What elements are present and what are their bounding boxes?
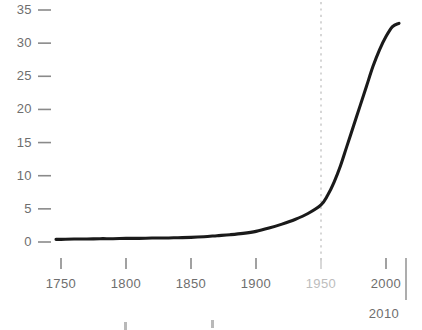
y-axis-tick-label: 25 [17,68,32,83]
bottom-edge-fragment [124,322,127,330]
y-axis-group: 05101520253035 [17,2,51,249]
x-axis-tick-label: 1850 [176,276,207,291]
bottom-edge-fragments [124,320,214,330]
data-series-line [56,23,399,239]
y-axis-tick-label: 20 [17,101,32,116]
bottom-edge-fragment [211,320,214,328]
y-axis-tick-label: 10 [17,168,32,183]
x-axis-tick-label: 1950 [306,276,337,291]
y-axis-tick-label: 0 [24,234,32,249]
y-axis-tick-label: 15 [17,135,32,150]
x-axis-tick-label: 1750 [46,276,77,291]
y-axis-tick-label: 5 [24,201,32,216]
y-axis-tick-label: 35 [17,2,32,17]
y-axis-tick-label: 30 [17,35,32,50]
x-axis-tick-label: 1800 [111,276,142,291]
x-axis-group: 1750180018501900195020002010 [46,258,406,321]
chart-container: 05101520253035 1750180018501900195020002… [0,0,422,330]
line-chart: 05101520253035 1750180018501900195020002… [0,0,422,330]
x-axis-end-label: 2010 [369,306,400,321]
x-axis-tick-label: 2000 [371,276,402,291]
x-axis-tick-label: 1900 [241,276,272,291]
series-group [56,23,399,239]
